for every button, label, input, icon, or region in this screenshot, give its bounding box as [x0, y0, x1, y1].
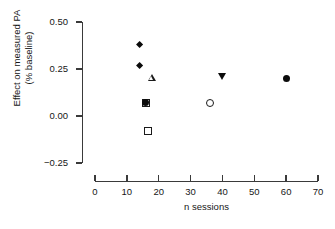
- x-axis-tick: [317, 175, 318, 181]
- data-point-triangle-down-filled: [218, 73, 226, 80]
- x-axis-tick: [158, 175, 159, 181]
- x-axis-tick: [126, 175, 127, 181]
- x-axis-tick-label: 60: [271, 186, 301, 197]
- y-axis-title: Effect on measured PA (% baseline): [11, 0, 35, 128]
- x-axis-tick: [94, 175, 95, 181]
- x-axis-line: [95, 181, 318, 182]
- x-axis-tick-label: 40: [207, 186, 237, 197]
- scatter-plot-figure: 0.500.250.00−0.25 010203040506070 Effect…: [0, 0, 335, 229]
- x-axis-tick-label: 10: [112, 186, 142, 197]
- y-axis-tick: [76, 68, 82, 69]
- y-axis-tick: [76, 115, 82, 116]
- x-axis-title: n sessions: [95, 201, 318, 212]
- x-axis-tick: [254, 175, 255, 181]
- data-point-circle-open: [206, 99, 214, 107]
- x-axis-tick-label: 20: [144, 186, 174, 197]
- x-axis-tick: [190, 175, 191, 181]
- x-axis-tick-label: 50: [239, 186, 269, 197]
- x-axis-tick: [285, 175, 286, 181]
- y-axis-tick: [76, 162, 82, 163]
- y-axis-tick-label: −0.25: [26, 158, 68, 168]
- x-axis-tick-label: 0: [80, 186, 110, 197]
- x-axis-tick-label: 70: [303, 186, 333, 197]
- x-axis-tick: [222, 175, 223, 181]
- data-point-diamond-filled: [136, 41, 143, 48]
- data-point-circle-filled: [283, 75, 290, 82]
- data-point-triangle-up-open: [148, 74, 156, 81]
- data-point-square-open: [144, 127, 152, 135]
- data-point-diamond-filled: [136, 62, 143, 69]
- x-axis-tick-label: 30: [176, 186, 206, 197]
- y-axis-line: [82, 22, 83, 163]
- y-axis-tick: [76, 21, 82, 22]
